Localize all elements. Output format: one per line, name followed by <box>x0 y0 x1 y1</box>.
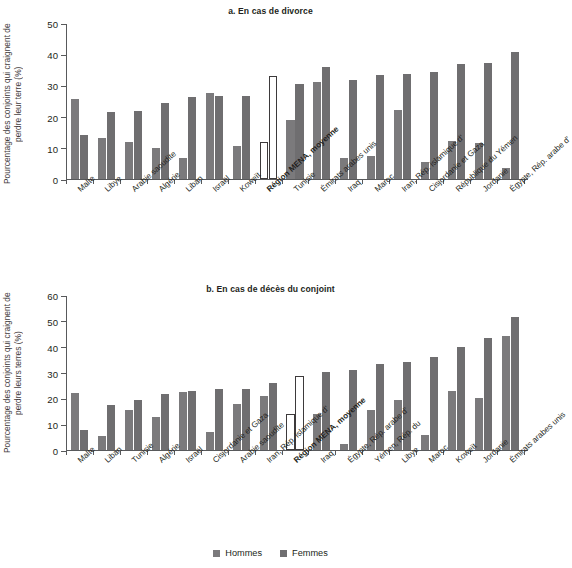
panel-a-plot-area: 01020304050 <box>66 24 524 180</box>
y-tick-label: 0 <box>53 446 58 457</box>
bar-femmes <box>430 357 438 450</box>
bar-femmes <box>403 74 411 179</box>
panel-b-plot-area: 0102030405060 <box>66 296 524 451</box>
y-tick <box>61 373 66 374</box>
bar-hommes <box>313 82 321 179</box>
bar-femmes <box>188 97 196 179</box>
panel-b-title: b. En cas de décès du conjoint <box>0 284 541 294</box>
y-tick-label: 30 <box>47 368 58 379</box>
bar-hommes <box>394 110 402 179</box>
y-tick <box>61 86 66 87</box>
bar-hommes <box>340 444 348 450</box>
y-tick-label: 30 <box>47 81 58 92</box>
bar-femmes <box>511 52 519 179</box>
panel-a-x-axis-line <box>66 179 528 180</box>
bar-hommes <box>125 410 133 450</box>
bar-femmes <box>484 338 492 450</box>
bar-femmes <box>161 394 169 450</box>
bar-hommes <box>421 435 429 450</box>
bar-femmes <box>188 391 196 450</box>
x-tick <box>66 180 67 184</box>
panel-a-y-axis-line <box>66 24 67 180</box>
legend-item-femmes: Femmes <box>280 548 328 558</box>
bar-hommes <box>71 99 79 179</box>
chart-panel-deces: b. En cas de décès du conjoint Pourcenta… <box>0 284 541 534</box>
bar-hommes <box>475 398 483 450</box>
bar-hommes <box>71 393 79 450</box>
y-tick-label: 50 <box>47 316 58 327</box>
y-tick-label: 10 <box>47 143 58 154</box>
bar-hommes <box>367 156 375 179</box>
y-tick <box>61 296 66 297</box>
y-tick <box>61 347 66 348</box>
bar-hommes <box>179 392 187 450</box>
figure-legend: Hommes Femmes <box>0 548 541 558</box>
y-tick <box>61 117 66 118</box>
legend-swatch-femmes-icon <box>280 550 287 557</box>
bar-femmes <box>215 389 223 450</box>
bar-femmes <box>134 400 142 450</box>
y-tick-label: 10 <box>47 420 58 431</box>
bar-hommes <box>502 336 510 450</box>
y-tick-label: 50 <box>47 19 58 30</box>
bar-hommes <box>206 93 214 179</box>
bar-femmes <box>269 76 277 179</box>
y-tick-label: 40 <box>47 342 58 353</box>
bar-femmes <box>134 111 142 179</box>
panel-b-y-axis-line <box>66 296 67 451</box>
y-tick <box>61 24 66 25</box>
y-tick <box>61 148 66 149</box>
panel-a-title: a. En cas de divorce <box>0 6 541 16</box>
legend-item-hommes: Hommes <box>213 548 262 558</box>
figure-top-title <box>0 0 541 2</box>
y-tick-label: 40 <box>47 50 58 61</box>
bar-femmes <box>457 347 465 450</box>
bar-femmes <box>215 96 223 179</box>
x-tick <box>335 451 336 455</box>
chart-panel-divorce: a. En cas de divorce Pourcentage des con… <box>0 6 541 268</box>
y-tick <box>61 425 66 426</box>
y-tick-label: 0 <box>53 175 58 186</box>
panel-b-x-axis-line <box>66 450 528 451</box>
bar-femmes <box>511 317 519 450</box>
bar-hommes <box>448 391 456 450</box>
bar-femmes <box>80 135 88 179</box>
x-axis-label: Iraq <box>319 449 335 465</box>
bar-hommes <box>125 142 133 179</box>
legend-swatch-hommes-icon <box>213 550 220 557</box>
panel-b-y-axis-title: Pourcentage des conjoints qui craignent … <box>2 292 26 454</box>
bar-hommes <box>233 146 241 179</box>
y-tick <box>61 321 66 322</box>
x-tick <box>66 451 67 455</box>
bar-femmes <box>242 96 250 179</box>
legend-label-femmes: Femmes <box>292 548 328 558</box>
bar-hommes <box>98 436 106 450</box>
bar-femmes <box>322 67 330 179</box>
bar-femmes <box>107 405 115 450</box>
x-axis-label: Iraq <box>346 178 362 194</box>
y-tick-label: 60 <box>47 291 58 302</box>
bar-femmes <box>107 112 115 179</box>
y-tick-label: 20 <box>47 394 58 405</box>
y-tick <box>61 399 66 400</box>
bar-femmes <box>376 75 384 179</box>
y-tick <box>61 55 66 56</box>
bar-hommes <box>260 142 268 179</box>
legend-label-hommes: Hommes <box>225 548 262 558</box>
y-tick-label: 20 <box>47 112 58 123</box>
panel-a-y-axis-title: Pourcentage des conjoints qui craignent … <box>2 20 26 188</box>
x-tick <box>362 180 363 184</box>
bar-hommes <box>206 432 214 450</box>
bar-hommes <box>98 138 106 179</box>
